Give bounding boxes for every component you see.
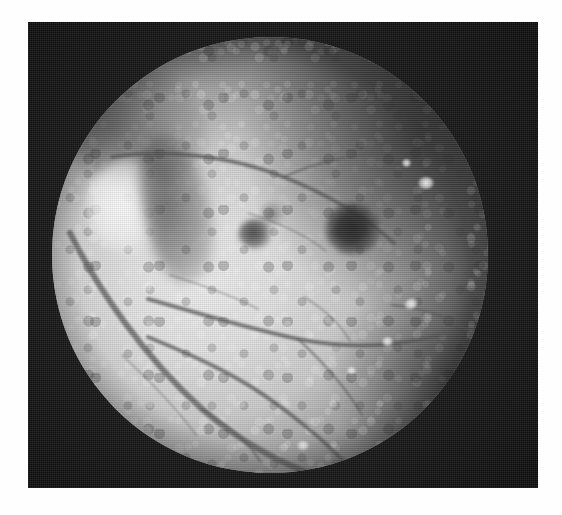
inferior-temporal-shadow <box>52 37 488 473</box>
illumination-gradient <box>52 37 488 473</box>
vessel-peripheral-temporal <box>392 305 476 337</box>
vessel-inferior-arcade-branch-2 <box>202 409 260 461</box>
fundus-photograph-plate <box>28 22 538 488</box>
macular-dark-lesion <box>325 203 381 255</box>
vessel-fine-branch-lower-left <box>122 355 196 435</box>
vessel-superior-branch-1 <box>284 153 382 177</box>
vessel-inferior-arcade-main <box>70 233 338 473</box>
exudate-fleck-2 <box>402 159 411 167</box>
optic-disc <box>88 159 166 255</box>
retinal-vasculature <box>52 37 488 473</box>
exudate-fleck-4 <box>382 337 393 346</box>
field-vignette <box>52 37 488 473</box>
vessel-mid-horizontal <box>148 299 448 345</box>
exudate-fleck-5 <box>297 441 309 450</box>
vessel-temporal-branch <box>298 339 362 415</box>
secondary-dark-lesion <box>238 219 272 249</box>
vessel-nasal-fine-branch <box>170 275 258 309</box>
peripapillary-pigment-crescent <box>129 128 225 288</box>
vessel-inferior-arcade-branch-1 <box>148 337 354 473</box>
exudate-fleck-3 <box>403 297 420 312</box>
secondary-lesion-tail <box>254 198 288 230</box>
vessel-fine-branch-upper <box>248 213 326 251</box>
superior-temporal-shadow <box>52 37 488 473</box>
fundus-image-field <box>52 37 488 473</box>
mottled-texture-layer <box>52 37 488 473</box>
vessel-fine-branch-center <box>304 297 350 341</box>
exudate-fleck-6 <box>347 367 356 374</box>
upper-rim-dark-arc <box>52 45 223 205</box>
exudate-fleck-1 <box>418 177 434 189</box>
halftone-grain-in-field <box>52 37 488 473</box>
vessel-superior-arcade-main <box>112 154 394 243</box>
page-root <box>0 0 562 515</box>
